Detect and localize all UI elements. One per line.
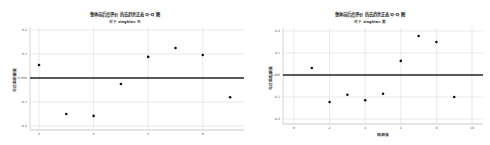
y-tick-label: -0.1 xyxy=(274,95,280,99)
data-point xyxy=(346,94,349,97)
data-point xyxy=(38,64,41,67)
x-tick-label: 8 xyxy=(202,132,204,136)
y-tick-label: 0.2 xyxy=(22,28,27,32)
data-point xyxy=(364,99,367,102)
chart-subtitle: 对于 singhle= 否 xyxy=(109,19,141,24)
chart-title: 整体前后度评价 的去趋势正态 Q-Q 图 xyxy=(90,11,159,18)
data-point xyxy=(92,115,95,118)
data-point xyxy=(435,41,438,44)
data-point xyxy=(311,67,314,70)
x-tick-label: 6 xyxy=(147,132,149,136)
y-tick-label: -0.2 xyxy=(21,124,27,128)
data-point xyxy=(400,60,403,63)
y-tick-label: 0.000 xyxy=(18,76,27,80)
y-tick-label: 0.2 xyxy=(275,29,280,33)
chart-subtitle: 对于 singhle= 是 xyxy=(354,19,386,24)
data-point xyxy=(174,47,177,50)
data-point xyxy=(229,96,232,99)
x-tick-label: 10 xyxy=(470,126,474,130)
chart-right: 整体前后度评价 的去趋势正态 Q-Q 图 对于 singhle= 是 0.20.… xyxy=(245,0,490,145)
chart-left: 整体前后度评价 的去趋势正态 Q-Q 图 对于 singhle= 否 0.20.… xyxy=(0,0,245,145)
chart-title: 整体前后度评价 的去趋势正态 Q-Q 图 xyxy=(335,11,404,18)
x-tick-label: 4 xyxy=(364,126,366,130)
plot-area: 0.20.10.000-0.1-0.22468 xyxy=(18,27,244,136)
y-axis-label: 与正态的偏差 xyxy=(268,66,273,90)
data-point xyxy=(417,35,420,38)
data-point xyxy=(120,83,123,86)
y-tick-label: -0.2 xyxy=(274,117,280,121)
x-tick-label: 2 xyxy=(329,126,331,130)
data-point xyxy=(202,54,205,57)
x-axis-label: 观测值 xyxy=(376,132,389,137)
x-tick-label: 8 xyxy=(435,126,437,130)
data-point xyxy=(328,101,331,104)
y-tick-label: 0.1 xyxy=(22,52,27,56)
y-tick-label: -0.1 xyxy=(21,100,27,104)
data-point xyxy=(382,92,385,95)
x-tick-label: 4 xyxy=(93,132,95,136)
x-tick-label: 0 xyxy=(293,126,295,130)
data-point xyxy=(147,56,150,59)
data-point xyxy=(453,96,456,99)
y-axis-label: 与正态的偏差 xyxy=(12,68,17,92)
x-tick-label: 2 xyxy=(38,132,40,136)
chart-right-svg: 整体前后度评价 的去趋势正态 Q-Q 图 对于 singhle= 是 0.20.… xyxy=(245,0,490,145)
chart-left-svg: 整体前后度评价 的去趋势正态 Q-Q 图 对于 singhle= 否 0.20.… xyxy=(0,0,245,145)
y-tick-label: 0.1 xyxy=(275,51,280,55)
x-tick-label: 6 xyxy=(400,126,402,130)
plot-area: 0.20.10.000-0.1-0.20246810 xyxy=(271,28,483,130)
data-point xyxy=(65,113,68,116)
